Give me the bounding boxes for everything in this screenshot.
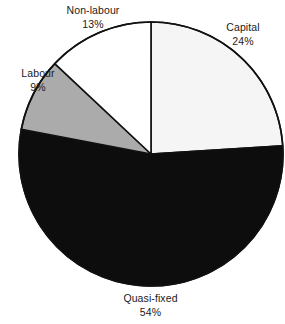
pie-label-non-labour-value: 13%	[38, 17, 148, 31]
pie-label-non-labour: Non-labour 13%	[38, 3, 148, 31]
pie-label-labour-value: 9%	[2, 80, 74, 94]
pie-label-quasi-fixed-name: Quasi-fixed	[78, 291, 223, 305]
pie-label-labour-name: Labour	[2, 66, 74, 80]
pie-label-labour: Labour 9%	[2, 66, 74, 94]
pie-chart: Non-labour 13% Capital 24% Labour 9% Qua…	[0, 0, 285, 324]
pie-slice-group	[19, 22, 283, 286]
pie-label-quasi-fixed: Quasi-fixed 54%	[78, 291, 223, 319]
pie-label-capital-name: Capital	[205, 20, 281, 34]
pie-label-quasi-fixed-value: 54%	[78, 305, 223, 319]
pie-chart-graphic	[0, 0, 285, 324]
pie-label-capital: Capital 24%	[205, 20, 281, 48]
pie-label-capital-value: 24%	[205, 34, 281, 48]
pie-label-non-labour-name: Non-labour	[38, 3, 148, 17]
